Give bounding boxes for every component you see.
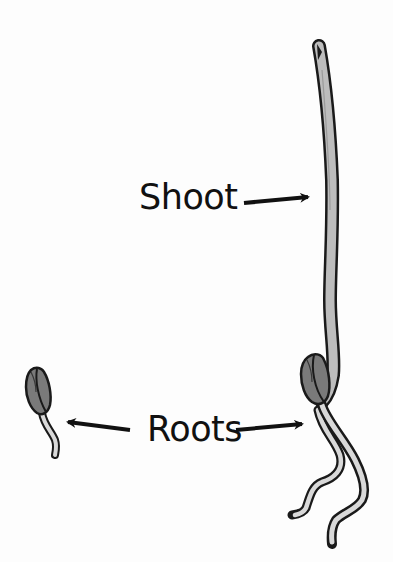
roots-arrow-left (68, 422, 130, 430)
roots-label: Roots (147, 412, 242, 447)
small-seed (26, 368, 56, 455)
shoot-arrow (244, 197, 308, 203)
seedling-illustration (0, 0, 393, 562)
seedling (292, 44, 364, 544)
roots-arrow-right (236, 424, 302, 430)
diagram-canvas: Shoot Roots (0, 0, 393, 562)
arrows (68, 197, 308, 430)
shoot-label: Shoot (139, 180, 237, 215)
